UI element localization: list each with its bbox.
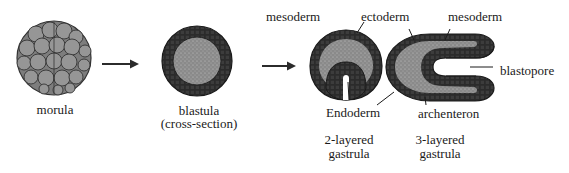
three-layered-gastrula-label-line2: gastrula — [409, 147, 471, 161]
blastopore-label: blastopore — [500, 64, 554, 78]
embryo-development-diagram — [0, 0, 569, 173]
morula-illustration — [17, 21, 91, 95]
mesoderm-label-right: mesoderm — [448, 10, 502, 24]
two-layered-gastrula-illustration — [310, 30, 382, 100]
three-layered-gastrula-label-line1: 3-layered — [409, 133, 471, 147]
ectoderm-label: ectoderm — [361, 10, 409, 24]
endoderm-label: Endoderm — [326, 106, 380, 120]
arrow-blastula-to-gastrula — [262, 62, 296, 71]
blastula-illustration — [162, 26, 232, 96]
arrow-morula-to-blastula — [102, 60, 139, 69]
archenteron-label: archenteron — [418, 107, 479, 121]
morula-label: morula — [31, 103, 79, 117]
two-layered-gastrula-label-line1: 2-layered — [318, 133, 380, 147]
mesoderm-label-left: mesoderm — [266, 10, 320, 24]
blastula-sublabel: (cross-section) — [144, 117, 254, 131]
two-layered-gastrula-label-line2: gastrula — [318, 147, 380, 161]
